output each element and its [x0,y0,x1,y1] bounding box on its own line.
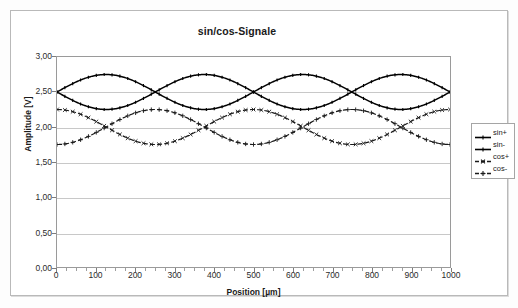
series-marker [133,111,137,115]
series-marker [71,140,75,144]
series-line-cosplus [57,110,450,145]
x-axis-tick-label: 500 [234,270,274,280]
series-marker [409,130,413,134]
series-marker [78,138,82,142]
series-marker [189,133,193,137]
legend-label: sin- [493,140,505,149]
series-marker [361,109,365,113]
legend-item-cosminus[interactable]: cos- [475,163,512,174]
series-marker [377,114,381,118]
legend-swatch-icon [475,128,491,137]
series-marker [330,111,334,115]
chart-frame: sin/cos-Signale Amplitude [V] 0,000,501,… [10,10,508,296]
series-marker [291,120,295,124]
x-axis-tick-labels: 01002003004005006007008009001000 [56,270,451,284]
series-marker [251,142,255,146]
series-marker [165,109,169,113]
series-marker [236,140,240,144]
series-marker [385,133,389,137]
legend-item-sinplus[interactable]: sin+ [475,127,512,138]
series-marker [424,138,428,142]
y-axis-tick-label: 2,50 [18,86,52,96]
series-marker [291,130,295,134]
series-marker [63,142,67,146]
series-marker [338,109,342,113]
series-marker [157,107,161,111]
series-marker [141,109,145,113]
series-marker [212,120,216,124]
y-axis-tick-labels: 0,000,501,001,502,002,503,00 [11,56,52,268]
series-marker [118,133,122,137]
series-marker [432,140,436,144]
legend-label: cos+ [493,152,509,161]
series-line-cosminus [57,110,450,145]
series-marker [181,114,185,118]
legend-label: cos- [493,164,507,173]
series-marker [369,111,373,115]
series-marker [188,117,192,121]
series-lines [57,57,450,267]
series-marker [275,138,279,142]
legend-swatch-icon [475,140,491,149]
series-marker [314,133,318,137]
legend-label: sin+ [493,128,507,137]
series-marker [267,140,271,144]
series-marker [409,120,413,124]
series-marker [448,108,450,112]
chart-title: sin/cos-Signale [11,25,463,37]
x-axis-tick-label: 700 [313,270,353,280]
series-marker [322,114,326,118]
legend-item-sinminus[interactable]: sin- [475,139,512,150]
series-marker [353,107,357,111]
x-axis-tick-label: 1000 [431,270,471,280]
chart-legend: sin+sin-cos+cos- [471,123,515,179]
x-axis-title: Position [µm] [56,287,451,297]
x-axis-tick-label: 100 [76,270,116,280]
legend-swatch-icon [475,152,491,161]
series-marker [110,128,114,132]
series-marker [393,122,397,126]
series-marker [220,134,224,138]
series-marker [283,134,287,138]
series-marker [243,142,247,146]
series-marker [212,130,216,134]
x-axis-tick-label: 400 [194,270,234,280]
series-marker [57,142,59,146]
series-marker [118,117,122,121]
series-marker [228,138,232,142]
series-marker [197,128,201,132]
chart-screenshot: sin/cos-Signale Amplitude [V] 0,000,501,… [0,0,518,308]
series-marker [94,120,98,124]
x-axis-tick-label: 200 [115,270,155,280]
series-marker [448,142,450,146]
y-axis-tick-label: 1,50 [18,157,52,167]
x-axis-tick-label: 800 [352,270,392,280]
x-axis-tick-label: 300 [155,270,195,280]
series-marker [307,128,311,132]
y-axis-tick-label: 2,00 [18,122,52,132]
series-marker [94,130,98,134]
y-axis-tick-label: 3,00 [18,51,52,61]
series-marker [393,128,397,132]
y-axis-tick-label: 0,50 [18,228,52,238]
legend-swatch-icon [475,164,491,173]
y-axis-tick-label: 1,00 [18,192,52,202]
x-axis-tick-label: 600 [273,270,313,280]
series-marker [385,117,389,121]
x-axis-tick-label: 900 [392,270,432,280]
plot-area [56,56,451,268]
series-marker [440,142,444,146]
series-marker [346,107,350,111]
series-marker [149,107,153,111]
series-marker [416,134,420,138]
series-marker [126,114,130,118]
legend-item-cosplus[interactable]: cos+ [475,151,512,162]
series-marker [86,134,90,138]
series-marker [259,142,263,146]
series-marker [314,117,318,121]
x-axis-tick-label: 0 [36,270,76,280]
series-marker [173,111,177,115]
